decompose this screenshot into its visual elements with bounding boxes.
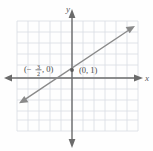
label-x-intercept-close: , 0) bbox=[42, 64, 54, 74]
y-axis-label: y bbox=[65, 4, 70, 14]
coordinate-plane-figure: (− 3 2 , 0) (0, 1) y x bbox=[0, 0, 153, 151]
label-x-intercept-denominator: 2 bbox=[37, 71, 40, 77]
label-x-intercept-open: (− bbox=[24, 64, 32, 74]
label-y-intercept: (0, 1) bbox=[79, 65, 98, 75]
graph-svg: (− 3 2 , 0) (0, 1) y x bbox=[0, 0, 153, 151]
figure-background bbox=[0, 0, 153, 151]
label-x-intercept-numerator: 3 bbox=[37, 64, 40, 70]
point-marker-y-intercept bbox=[70, 68, 74, 72]
x-axis-label: x bbox=[144, 73, 149, 83]
